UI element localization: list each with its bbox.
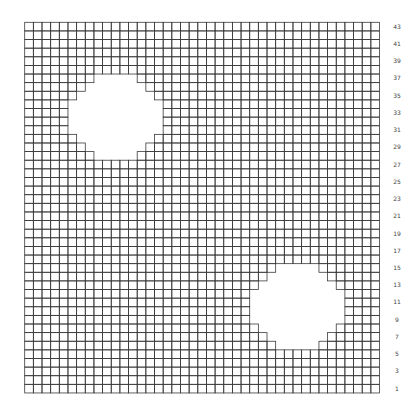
grid-cell	[276, 40, 285, 49]
grid-cell	[85, 31, 94, 40]
grid-cell	[172, 48, 181, 57]
grid-cell	[354, 186, 363, 195]
grid-cell	[336, 376, 345, 385]
grid-cell	[241, 195, 250, 204]
grid-cell	[354, 31, 363, 40]
grid-cell	[310, 134, 319, 143]
grid-cell	[103, 384, 112, 393]
grid-cell	[68, 333, 77, 342]
grid-cell	[189, 324, 198, 333]
grid-cell	[155, 195, 164, 204]
grid-cell	[51, 272, 60, 281]
grid-cell	[85, 160, 94, 169]
grid-cell	[345, 203, 354, 212]
grid-cell	[362, 109, 371, 118]
grid-cell	[111, 65, 120, 74]
grid-cell	[232, 169, 241, 178]
grid-cell	[146, 367, 155, 376]
grid-cell	[103, 255, 112, 264]
grid-cell	[302, 40, 311, 49]
grid-cell	[25, 315, 34, 324]
grid-cell	[172, 333, 181, 342]
grid-cell	[172, 246, 181, 255]
grid-cell	[51, 152, 60, 161]
grid-cell	[120, 22, 129, 31]
grid-cell	[215, 100, 224, 109]
grid-cell	[354, 324, 363, 333]
grid-cell	[354, 221, 363, 230]
grid-cell	[172, 109, 181, 118]
grid-cell	[68, 358, 77, 367]
grid-cell	[258, 384, 267, 393]
grid-cell	[293, 134, 302, 143]
grid-cell	[189, 221, 198, 230]
grid-cell	[232, 22, 241, 31]
grid-cell	[362, 212, 371, 221]
grid-cell	[51, 221, 60, 230]
grid-cell	[293, 212, 302, 221]
row-label: 23	[389, 195, 405, 203]
grid-cell	[94, 221, 103, 230]
grid-cell	[206, 160, 215, 169]
grid-cell	[94, 333, 103, 342]
grid-cell	[302, 169, 311, 178]
grid-cell	[232, 350, 241, 359]
grid-cell	[172, 255, 181, 264]
grid-cell	[284, 203, 293, 212]
grid-cell	[328, 350, 337, 359]
grid-cell	[345, 31, 354, 40]
grid-cell	[155, 186, 164, 195]
grid-cell	[137, 246, 146, 255]
grid-cell	[224, 57, 233, 66]
grid-cell	[250, 31, 259, 40]
grid-cell	[94, 229, 103, 238]
grid-cell	[189, 117, 198, 126]
grid-cell	[42, 333, 51, 342]
grid-cell	[59, 281, 68, 290]
row-label: 39	[389, 57, 405, 65]
grid-cell	[94, 40, 103, 49]
grid-cell	[302, 212, 311, 221]
grid-cell	[267, 126, 276, 135]
grid-cell	[319, 246, 328, 255]
grid-cell	[68, 384, 77, 393]
grid-cell	[345, 281, 354, 290]
grid-cell	[120, 324, 129, 333]
grid-cell	[172, 160, 181, 169]
grid-cell	[250, 169, 259, 178]
grid-cell	[33, 307, 42, 316]
grid-cell	[163, 48, 172, 57]
grid-cell	[328, 117, 337, 126]
grid-cell	[146, 74, 155, 83]
grid-cell	[250, 22, 259, 31]
row-label: 29	[389, 143, 405, 151]
grid-cell	[241, 264, 250, 273]
grid-cell	[198, 281, 207, 290]
grid-cell	[302, 376, 311, 385]
grid-cell	[310, 246, 319, 255]
grid-cell	[293, 57, 302, 66]
grid-cell	[180, 22, 189, 31]
grid-cell	[129, 333, 138, 342]
grid-cell	[206, 315, 215, 324]
grid-cell	[345, 143, 354, 152]
grid-cell	[137, 40, 146, 49]
grid-cell	[224, 31, 233, 40]
grid-cell	[336, 367, 345, 376]
grid-cell	[77, 272, 86, 281]
grid-cell	[172, 229, 181, 238]
grid-cell	[293, 384, 302, 393]
grid-cell	[241, 160, 250, 169]
grid-cell	[146, 229, 155, 238]
grid-cell	[371, 341, 380, 350]
grid-cell	[137, 324, 146, 333]
grid-cell	[137, 298, 146, 307]
grid-cell	[345, 117, 354, 126]
grid-cell	[354, 48, 363, 57]
grid-cell	[371, 100, 380, 109]
grid-cell	[94, 272, 103, 281]
grid-cell	[155, 57, 164, 66]
grid-cell	[284, 152, 293, 161]
grid-cell	[59, 40, 68, 49]
grid-cell	[120, 264, 129, 273]
